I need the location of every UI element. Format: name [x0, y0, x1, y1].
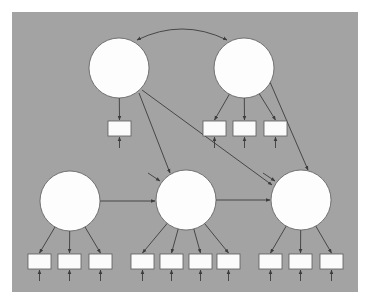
observed-indicator-y3	[233, 121, 256, 136]
observed-indicator-y5	[28, 254, 51, 269]
observed-indicator-y8	[131, 254, 154, 269]
observed-indicator-y6	[58, 254, 81, 269]
latent-variable-l1	[89, 38, 149, 98]
observed-indicator-y7	[89, 254, 112, 269]
observed-indicator-y2	[203, 121, 226, 136]
observed-indicator-y10	[189, 254, 212, 269]
observed-indicator-y1	[108, 121, 131, 136]
observed-indicator-y14	[320, 254, 343, 269]
sem-path-diagram	[0, 0, 369, 305]
observed-indicator-y12	[259, 254, 282, 269]
latent-variable-l3	[40, 171, 100, 231]
observed-indicator-y11	[217, 254, 240, 269]
observed-indicator-y4	[264, 121, 287, 136]
observed-indicator-y9	[160, 254, 183, 269]
latent-variable-l2	[214, 38, 274, 98]
diagram-background-panel	[12, 12, 358, 292]
latent-variable-l5	[271, 170, 331, 230]
latent-variable-l4	[156, 170, 216, 230]
observed-indicator-y13	[289, 254, 312, 269]
